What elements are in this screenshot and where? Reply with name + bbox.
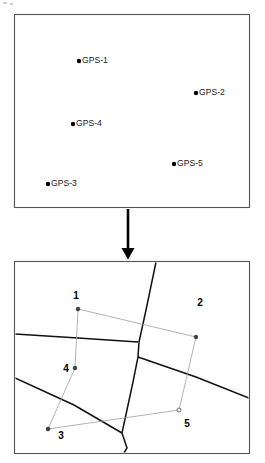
gps-point-label: GPS-2 <box>199 87 225 97</box>
gps-dot-icon <box>71 122 75 126</box>
gps-point-label: GPS-4 <box>76 118 102 128</box>
parcel-number-4: 4 <box>63 363 69 374</box>
gps-point-label: GPS-5 <box>177 158 203 168</box>
parcel-number-5: 5 <box>184 418 190 429</box>
survey-node-5[interactable] <box>177 408 181 412</box>
gps-dot-icon <box>172 162 176 166</box>
parcel-number-1: 1 <box>73 290 79 301</box>
gps-dot-icon <box>46 182 50 186</box>
gps-point-label: GPS-1 <box>82 55 108 65</box>
survey-node-4[interactable] <box>73 366 77 370</box>
figure-root: GPS-1 GPS-2 GPS-4 GPS-5 GPS-3 <box>0 0 265 463</box>
top-panel-frame <box>15 15 250 208</box>
gps-point-gps-1[interactable]: GPS-1 <box>77 55 108 65</box>
survey-node-1[interactable] <box>76 307 80 311</box>
scan-artifacts <box>3 2 13 5</box>
flow-arrow-icon <box>122 209 135 260</box>
survey-node-3[interactable] <box>46 427 50 431</box>
gps-point-gps-5[interactable]: GPS-5 <box>172 158 203 168</box>
figure-canvas: GPS-1 GPS-2 GPS-4 GPS-5 GPS-3 <box>0 0 265 463</box>
gps-point-gps-4[interactable]: GPS-4 <box>71 118 102 128</box>
flow-arrow-head <box>122 248 135 260</box>
parcel-number-2: 2 <box>197 297 203 308</box>
gps-point-gps-3[interactable]: GPS-3 <box>46 178 77 188</box>
parcel-number-3: 3 <box>58 430 64 441</box>
gps-dot-icon <box>194 91 198 95</box>
bottom-panel: 1 2 4 5 3 <box>15 262 250 454</box>
survey-node-2[interactable] <box>194 335 198 339</box>
top-panel: GPS-1 GPS-2 GPS-4 GPS-5 GPS-3 <box>15 15 250 208</box>
gps-dot-icon <box>77 59 81 63</box>
gps-point-label: GPS-3 <box>51 178 77 188</box>
gps-point-gps-2[interactable]: GPS-2 <box>194 87 225 97</box>
